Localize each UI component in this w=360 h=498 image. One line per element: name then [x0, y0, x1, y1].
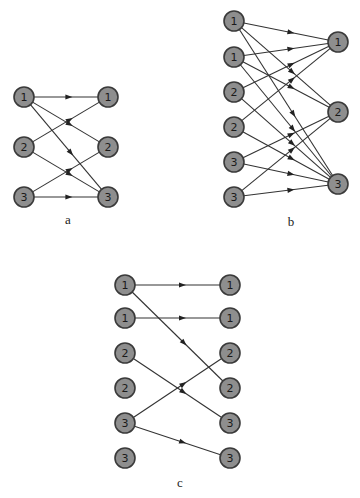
node-label: 2 [122, 347, 129, 360]
arrowhead-icon [179, 439, 186, 444]
captions-layer: abc [65, 212, 294, 490]
nodes-layer: 123123112233123112233112233 [14, 11, 348, 468]
node-b-right-2: 3 [328, 174, 348, 194]
diagram-c [132, 282, 223, 454]
node-label: 1 [231, 51, 238, 64]
diagram-b-nodes: 112233123 [224, 11, 348, 207]
node-b-left-2: 2 [224, 82, 244, 102]
diagram-c-nodes: 112233112233 [115, 275, 240, 468]
node-label: 2 [227, 347, 234, 360]
node-label: 1 [227, 312, 234, 325]
node-c-right-4: 3 [220, 413, 240, 433]
arrowhead-icon [287, 83, 294, 89]
node-a-right-0: 1 [98, 87, 118, 107]
node-c-right-0: 1 [220, 275, 240, 295]
node-a-left-1: 2 [14, 137, 34, 157]
node-c-left-2: 2 [115, 343, 135, 363]
edge-b-2-to-3 [243, 132, 329, 179]
node-c-left-3: 2 [115, 378, 135, 398]
arrowhead-icon [287, 155, 294, 161]
node-a-left-2: 3 [14, 187, 34, 207]
node-b-left-1: 1 [224, 47, 244, 67]
arrowhead-icon [65, 94, 72, 99]
node-label: 3 [122, 452, 129, 465]
node-label: 1 [231, 15, 238, 28]
caption-c: c [177, 475, 183, 490]
node-label: 2 [105, 141, 112, 154]
node-b-right-1: 2 [328, 102, 348, 122]
node-label: 2 [21, 141, 28, 154]
node-label: 2 [227, 382, 234, 395]
caption-b: b [288, 214, 295, 229]
arrowhead-icon [287, 47, 294, 52]
node-c-left-1: 1 [115, 308, 135, 328]
node-label: 1 [122, 279, 129, 292]
arrowhead-icon [289, 110, 295, 117]
node-c-left-4: 3 [115, 413, 135, 433]
node-label: 1 [105, 91, 112, 104]
arrowhead-icon [179, 315, 186, 320]
arrowhead-icon [179, 282, 186, 287]
edge-b-1-to-1 [244, 43, 328, 55]
arrowhead-icon [287, 133, 294, 138]
node-b-left-0: 1 [224, 11, 244, 31]
arrowhead-icon [287, 29, 294, 34]
node-a-right-2: 3 [98, 187, 118, 207]
edges-layer [30, 23, 332, 455]
node-label: 1 [227, 279, 234, 292]
node-label: 2 [231, 86, 238, 99]
node-a-right-1: 2 [98, 137, 118, 157]
node-c-right-1: 1 [220, 308, 240, 328]
node-label: 1 [335, 36, 342, 49]
arrowhead-icon [65, 194, 72, 199]
node-label: 3 [105, 191, 112, 204]
edge-b-2-to-1 [242, 48, 331, 120]
node-c-right-3: 2 [220, 378, 240, 398]
node-b-left-3: 2 [224, 117, 244, 137]
edge-b-3-to-3 [244, 185, 328, 196]
node-label: 3 [227, 452, 234, 465]
edge-b-2-to-1 [243, 46, 329, 87]
edge-b-1-to-1 [244, 23, 328, 40]
edge-b-1-to-3 [240, 65, 331, 177]
node-b-right-0: 1 [328, 32, 348, 52]
node-b-left-4: 3 [224, 152, 244, 172]
diagram-a [30, 94, 101, 199]
edge-c-3-to-3 [134, 426, 220, 455]
node-label: 3 [231, 156, 238, 169]
node-label: 3 [335, 178, 342, 191]
node-label: 3 [227, 417, 234, 430]
node-c-right-5: 3 [220, 448, 240, 468]
edge-a-1-to-3 [30, 105, 101, 190]
node-label: 3 [21, 191, 28, 204]
node-a-left-0: 1 [14, 87, 34, 107]
node-label: 1 [122, 312, 129, 325]
arrowhead-icon [179, 382, 186, 388]
arrowhead-icon [287, 63, 294, 68]
node-c-left-0: 1 [115, 275, 135, 295]
node-label: 2 [231, 121, 238, 134]
edge-b-3-to-2 [243, 116, 329, 157]
node-c-right-2: 2 [220, 343, 240, 363]
bipartite-diagram-canvas: 123123112233123112233112233 abc [0, 0, 360, 498]
edge-c-1-to-2 [132, 292, 223, 381]
node-label: 1 [21, 91, 28, 104]
node-label: 3 [231, 191, 238, 204]
node-b-left-5: 3 [224, 187, 244, 207]
node-label: 2 [122, 382, 129, 395]
node-label: 3 [122, 417, 129, 430]
arrowhead-icon [287, 188, 294, 193]
diagram-b [239, 23, 332, 196]
node-c-left-5: 3 [115, 448, 135, 468]
node-label: 2 [335, 106, 342, 119]
arrowhead-icon [179, 388, 186, 394]
caption-a: a [65, 212, 71, 227]
arrowhead-icon [287, 171, 294, 176]
